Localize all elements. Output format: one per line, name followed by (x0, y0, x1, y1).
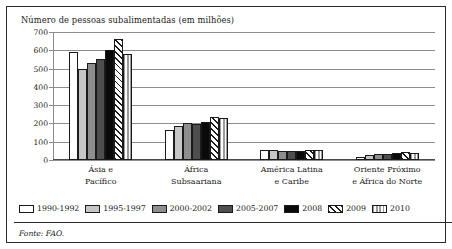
bar-group (149, 32, 245, 160)
legend-item[interactable]: 2000-2002 (152, 204, 212, 213)
bar (401, 152, 410, 160)
gridline (53, 160, 435, 161)
category-label-line: Pacífico (53, 176, 149, 188)
bar-group (340, 32, 436, 160)
bar (392, 153, 401, 160)
bar-groups (53, 32, 435, 160)
bar (96, 59, 105, 160)
bar-group (244, 32, 340, 160)
category-label-line: África (149, 164, 245, 176)
bar (287, 151, 296, 160)
y-tick-label: 700 (34, 28, 49, 37)
bar (305, 150, 314, 160)
bar (87, 63, 96, 160)
bar (219, 118, 228, 160)
legend-label: 1990-1992 (37, 204, 79, 213)
bar (210, 117, 219, 160)
bar (78, 69, 87, 160)
legend-label: 2008 (302, 204, 322, 213)
y-tick-label: 300 (34, 101, 49, 110)
y-tick-label: 500 (34, 64, 49, 73)
category-labels: Ásia ePacíficoÁfricaSubsaarianaAmérica L… (53, 164, 435, 187)
legend-label: 2009 (346, 204, 366, 213)
bar (123, 54, 132, 160)
bar (105, 50, 114, 160)
y-tick-label: 100 (34, 137, 49, 146)
bar (365, 155, 374, 160)
bar (374, 154, 383, 160)
category-label-line: Subsaariana (149, 176, 245, 188)
category-label: América Latinae Caribe (244, 164, 340, 187)
legend-item[interactable]: 2009 (328, 204, 366, 213)
category-label: ÁfricaSubsaariana (149, 164, 245, 187)
bar (314, 150, 323, 160)
legend-swatch-icon (284, 205, 299, 213)
bar-group (53, 32, 149, 160)
chart-legend: 1990-19921995-19972000-20022005-20072008… (19, 204, 447, 213)
y-tick-label: 400 (34, 82, 49, 91)
legend-swatch-icon (19, 205, 34, 213)
legend-item[interactable]: 2008 (284, 204, 322, 213)
bar (165, 130, 174, 160)
legend-label: 2000-2002 (170, 204, 212, 213)
legend-item[interactable]: 2010 (372, 204, 410, 213)
category-label: Ásia ePacífico (53, 164, 149, 187)
legend-swatch-icon (372, 205, 387, 213)
legend-swatch-icon (328, 205, 343, 213)
bar (410, 153, 419, 160)
chart-frame: Número de pessoas subalimentadas (em mil… (6, 6, 446, 243)
bar (260, 150, 269, 160)
bar (278, 151, 287, 160)
legend-swatch-icon (152, 205, 167, 213)
plot-area: 0100200300400500600700 (53, 32, 435, 160)
bar (296, 151, 305, 160)
legend-label: 1995-1997 (103, 204, 145, 213)
category-label-line: Ásia e (53, 164, 149, 176)
bar (183, 123, 192, 160)
legend-divider (14, 222, 452, 223)
legend-swatch-icon (85, 205, 100, 213)
y-tick-label: 0 (43, 156, 48, 165)
bar (114, 39, 123, 160)
legend-label: 2005-2007 (236, 204, 278, 213)
legend-label: 2010 (390, 204, 410, 213)
bar (192, 124, 201, 160)
legend-item[interactable]: 1990-1992 (19, 204, 79, 213)
category-label: Oriente Próximoe África do Norte (340, 164, 436, 187)
y-tick-label: 600 (34, 46, 49, 55)
category-label-line: América Latina (244, 164, 340, 176)
category-label-line: e África do Norte (340, 176, 436, 188)
legend-item[interactable]: 1995-1997 (85, 204, 145, 213)
category-label-line: Oriente Próximo (340, 164, 436, 176)
category-label-line: e Caribe (244, 176, 340, 188)
bar (269, 150, 278, 160)
bar (383, 154, 392, 160)
legend-item[interactable]: 2005-2007 (218, 204, 278, 213)
source-note: Fonte: FAO. (19, 229, 64, 238)
bar (201, 122, 210, 160)
chart-title: Número de pessoas subalimentadas (em mil… (21, 15, 234, 25)
legend-swatch-icon (218, 205, 233, 213)
y-tick-label: 200 (34, 119, 49, 128)
bar (174, 126, 183, 160)
y-tick-mark (49, 160, 53, 161)
bar (356, 157, 365, 160)
bar (69, 52, 78, 160)
